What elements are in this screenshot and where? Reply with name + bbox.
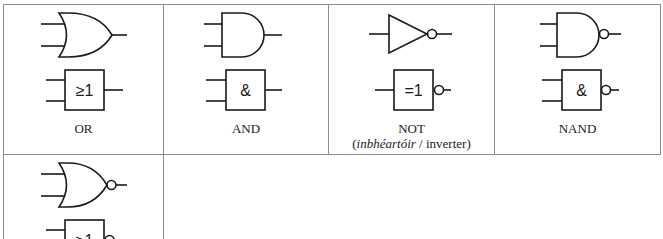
gate-sublabel-not: (inbhéartóir / inverter)	[329, 136, 494, 151]
gate-cell-nor: ≥1 NOR	[3, 154, 164, 239]
not-gate-iec-icon: =1	[375, 70, 451, 110]
gate-cell-or: ≥1 OR	[3, 4, 164, 155]
not-gate-distinctive-icon	[369, 15, 452, 53]
and-gate-distinctive-icon	[204, 13, 282, 57]
svg-text:≥1: ≥1	[76, 232, 94, 239]
gate-label-nand: NAND	[495, 121, 660, 136]
irish-term: inbhéartóir	[357, 136, 416, 151]
svg-text:≥1: ≥1	[76, 82, 94, 99]
svg-text:=1: =1	[404, 82, 422, 99]
or-gate-distinctive-icon	[41, 13, 127, 57]
gate-label-and: AND	[164, 121, 328, 136]
gate-label-or: OR	[4, 121, 163, 136]
gate-cell-and: & AND	[163, 4, 329, 155]
svg-text:&: &	[240, 82, 251, 99]
or-gate-iec-icon: ≥1	[46, 70, 123, 110]
nand-gate-iec-icon: &	[542, 70, 619, 110]
nor-gate-distinctive-icon	[41, 163, 127, 207]
nor-gate-iec-icon: ≥1	[46, 220, 123, 239]
svg-text:&: &	[576, 82, 587, 99]
gate-label-not: NOT	[329, 121, 494, 136]
nand-gate-distinctive-icon	[540, 13, 621, 57]
nor-gate-symbols: ≥1	[4, 155, 165, 239]
gate-cell-nand: & NAND	[494, 4, 661, 155]
and-gate-iec-icon: &	[206, 70, 282, 110]
gate-cell-not: =1 NOT (inbhéartóir / inverter)	[328, 4, 495, 155]
